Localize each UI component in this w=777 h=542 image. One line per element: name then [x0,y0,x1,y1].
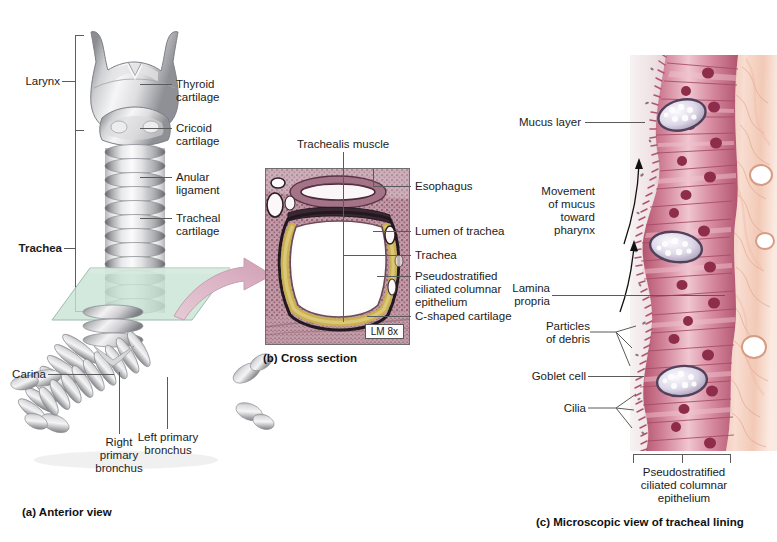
lead-cricoid-cartilage [140,128,172,129]
label-thyroid-cartilage: Thyroid cartilage [176,78,262,104]
mucus-movement-arrows-icon [610,122,650,312]
lead-anular-ligament [140,177,172,178]
label-trachealis-muscle: Trachealis muscle [273,138,413,151]
label-right-primary-bronchus: Right primary bronchus [80,436,158,475]
lead-trachea-panelb [343,255,411,256]
label-anular-ligament: Anular ligament [176,171,262,197]
label-movement-of-mucus: Movement of mucus toward pharynx [510,185,595,237]
lead-larynx [62,81,76,82]
lead-carina [48,374,114,375]
magnification-badge: LM 8x [365,324,404,339]
lead-thyroid-cartilage [140,84,172,85]
label-esophagus: Esophagus [415,180,525,193]
lead-trachea-bracket [64,248,76,249]
tracheal-lining-illustration [630,55,777,451]
lead-right-primary-bronchus [119,372,120,434]
label-cricoid-cartilage: Cricoid cartilage [176,122,262,148]
panel-microscopic-view: Mucus layer Movement of mucus toward pha… [600,50,777,460]
lead-lamina-propria [552,295,725,296]
lead-goblet-cell [588,376,644,377]
lead-esophagus [373,186,411,187]
lead-left-primary-bronchus [167,377,168,429]
label-trachea-panelb: Trachea [415,249,525,262]
caption-panel-c: (c) Microscopic view of tracheal lining [536,516,744,528]
caption-panel-a: (a) Anterior view [22,506,112,518]
label-mucus-layer: Mucus layer [515,116,581,129]
lead-lumen-of-trachea [373,231,411,232]
lead-trachea-panelb-vert [343,197,344,322]
panel-cross-section: LM 8x Trachealis muscle Esophagus Lumen … [255,130,555,370]
label-cilia: Cilia [520,402,586,415]
label-larynx: Larynx [8,75,60,88]
lead-esophagus-vert [373,169,374,187]
label-particles-of-debris: Particles of debris [522,320,590,346]
lead-c-shaped-cartilage [367,316,411,317]
lead-tracheal-cartilage [140,218,172,219]
lead-cilia [588,394,646,434]
label-lamina-propria: Lamina propria [505,282,550,308]
label-tracheal-cartilage: Tracheal cartilage [176,212,262,238]
lead-particles-of-debris [590,326,645,372]
label-epithelium-bracket: Pseudostratified ciliated columnar epith… [614,466,754,505]
label-carina: Carina [2,368,46,381]
label-goblet-cell: Goblet cell [510,370,586,383]
histology-image: LM 8x [265,168,410,345]
label-trachea: Trachea [2,242,62,255]
bracket-epithelium [633,454,731,463]
lead-pseudostratified-epithelium [377,276,411,277]
figure-root: Larynx Trachea [0,0,777,542]
lead-trachealis-muscle [343,152,344,197]
caption-panel-b: (b) Cross section [263,352,357,364]
